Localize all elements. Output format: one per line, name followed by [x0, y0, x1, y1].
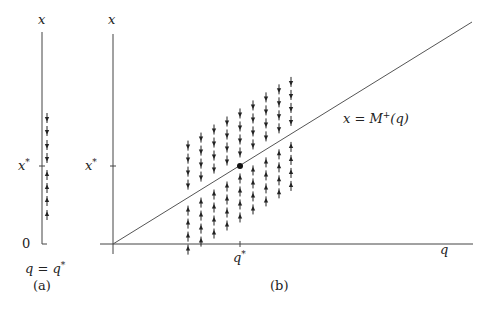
arrow-down-icon — [225, 117, 229, 127]
arrow-up-icon — [277, 175, 281, 185]
arrow-up-icon — [199, 224, 203, 234]
arrow-up-icon — [289, 155, 293, 165]
arrow-down-icon — [186, 167, 190, 177]
arrow-down-icon — [199, 146, 203, 156]
arrow-down-icon — [238, 121, 242, 131]
arrow-up-icon — [199, 211, 203, 221]
arrow-up-icon — [212, 190, 216, 200]
arrow-up-icon — [186, 219, 190, 229]
arrow-up-icon — [45, 183, 49, 193]
arrow-down-icon — [45, 126, 49, 136]
arrow-up-icon — [238, 173, 242, 183]
arrow-down-icon — [199, 172, 203, 182]
arrow-down-icon — [251, 100, 255, 110]
arrow-down-icon — [225, 130, 229, 140]
arrow-down-icon — [45, 113, 49, 123]
arrow-down-icon — [225, 156, 229, 166]
arrow-up-icon — [45, 170, 49, 180]
arrow-down-icon — [277, 123, 281, 133]
arrow-up-icon — [186, 245, 190, 255]
arrow-down-icon — [186, 180, 190, 190]
arrow-up-icon — [289, 142, 293, 152]
arrow-up-icon — [225, 221, 229, 231]
arrow-down-icon — [212, 138, 216, 148]
arrow-down-icon — [289, 90, 293, 100]
arrow-down-icon — [277, 97, 281, 107]
panel-a-label: (a) — [33, 278, 51, 293]
panel-b-y-axis-label: x — [108, 12, 116, 27]
arrow-down-icon — [238, 108, 242, 118]
arrow-up-icon — [186, 206, 190, 216]
arrow-up-icon — [277, 188, 281, 198]
panel-b-label: (b) — [270, 278, 288, 293]
arrow-down-icon — [289, 116, 293, 126]
arrow-down-icon — [277, 110, 281, 120]
arrow-up-icon — [45, 210, 49, 220]
panel-a-zero-label: 0 — [22, 236, 30, 251]
arrow-up-icon — [251, 165, 255, 175]
arrow-down-icon — [251, 139, 255, 149]
arrow-up-icon — [225, 208, 229, 218]
arrow-down-icon — [264, 92, 268, 102]
arrow-up-icon — [277, 162, 281, 172]
arrow-up-icon — [264, 157, 268, 167]
arrow-up-icon — [212, 203, 216, 213]
arrow-up-icon — [238, 199, 242, 209]
panel-b-x-axis-label: q — [440, 242, 448, 257]
panel-b-x-star-label: x* — [85, 157, 97, 173]
arrow-up-icon — [264, 183, 268, 193]
arrow-up-icon — [212, 216, 216, 226]
arrow-down-icon — [251, 126, 255, 136]
arrow-up-icon — [225, 182, 229, 192]
panel-a-x-star-label: x* — [18, 157, 30, 173]
arrow-down-icon — [212, 125, 216, 135]
arrow-down-icon — [289, 103, 293, 113]
arrow-down-icon — [212, 151, 216, 161]
panel-b-q-star-label: q* — [233, 249, 246, 265]
arrow-up-icon — [277, 149, 281, 159]
arrow-down-icon — [251, 113, 255, 123]
arrow-down-icon — [45, 140, 49, 150]
arrow-up-icon — [212, 229, 216, 239]
arrow-up-icon — [225, 195, 229, 205]
panel-a: x x* 0 q = q* (a) — [18, 12, 66, 293]
arrow-up-icon — [264, 170, 268, 180]
arrow-down-icon — [199, 159, 203, 169]
arrow-up-icon — [238, 212, 242, 222]
arrow-down-icon — [186, 141, 190, 151]
phase-diagram: x x* 0 q = q* (a) x x* q* q x = M+(q) (b… — [0, 0, 486, 309]
arrow-down-icon — [277, 84, 281, 94]
arrow-up-icon — [251, 178, 255, 188]
arrow-up-icon — [264, 196, 268, 206]
arrow-down-icon — [225, 143, 229, 153]
arrow-up-icon — [289, 168, 293, 178]
arrow-up-icon — [199, 237, 203, 247]
arrow-down-icon — [186, 154, 190, 164]
arrow-up-icon — [251, 204, 255, 214]
arrow-down-icon — [264, 131, 268, 141]
arrow-down-icon — [264, 118, 268, 128]
panel-a-y-axis-label: x — [38, 12, 46, 27]
arrow-down-icon — [238, 134, 242, 144]
panel-b: x x* q* q x = M+(q) (b) — [85, 12, 473, 293]
equilibrium-point — [237, 163, 243, 169]
arrow-down-icon — [199, 133, 203, 143]
arrow-up-icon — [199, 198, 203, 208]
curve-m-plus — [113, 22, 472, 244]
arrow-down-icon — [238, 147, 242, 157]
arrow-up-icon — [186, 232, 190, 242]
panel-a-caption: q = q* — [25, 260, 66, 276]
arrow-down-icon — [264, 105, 268, 115]
arrow-up-icon — [251, 191, 255, 201]
arrow-down-icon — [289, 77, 293, 87]
arrow-down-icon — [45, 153, 49, 163]
arrow-up-icon — [45, 196, 49, 206]
arrow-down-icon — [212, 164, 216, 174]
curve-label: x = M+(q) — [343, 110, 409, 126]
arrow-up-icon — [289, 181, 293, 191]
arrow-up-icon — [238, 186, 242, 196]
panel-a-flow-arrows — [45, 113, 49, 220]
